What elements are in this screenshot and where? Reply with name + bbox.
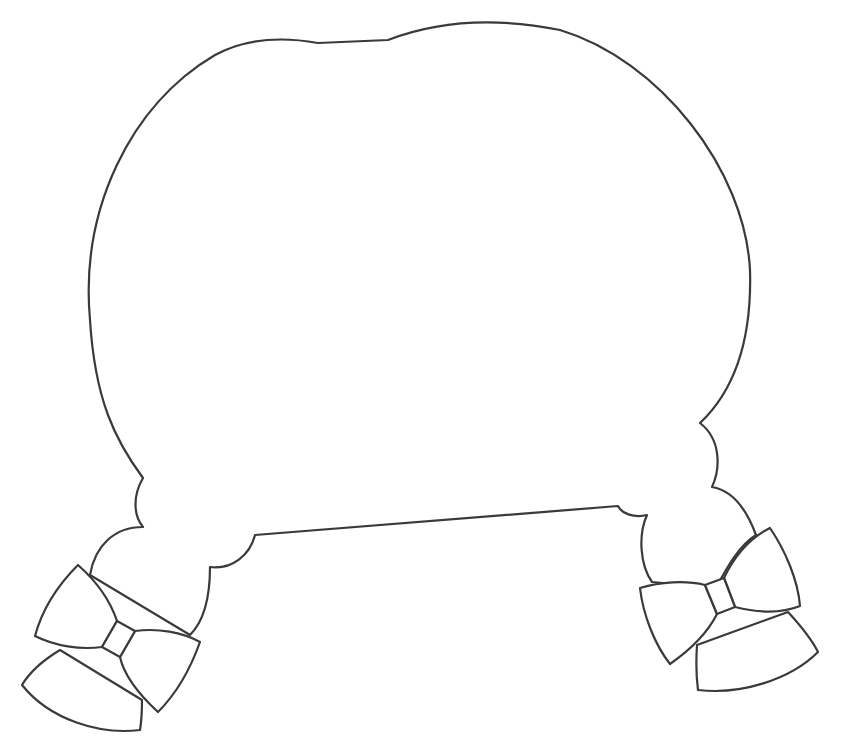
- hair-illustration: [0, 0, 842, 752]
- right-bow-lower-wing: [696, 612, 818, 691]
- head-outline: [89, 23, 756, 635]
